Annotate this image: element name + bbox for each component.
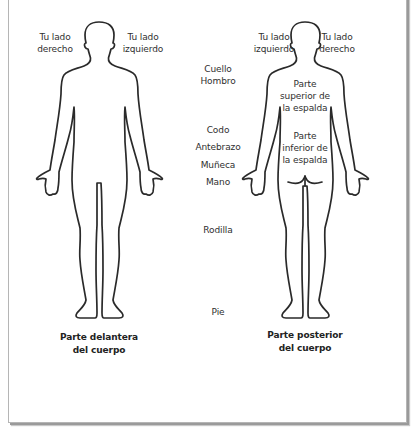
label-line: Parte: [275, 130, 335, 142]
label-line: Tu lado: [249, 31, 299, 43]
label-line: inferior de: [275, 142, 335, 154]
label-line: izquierdo: [118, 43, 168, 55]
back-right-side-label: Tu lado derecho: [312, 31, 362, 55]
label-foot: Pie: [188, 306, 248, 318]
caption-line: del cuerpo: [54, 344, 144, 357]
back-left-side-label: Tu lado izquierdo: [249, 31, 299, 55]
label-line: la espalda: [275, 102, 335, 114]
front-caption: Parte delantera del cuerpo: [54, 331, 144, 356]
label-line: Tu lado: [30, 31, 80, 43]
label-line: la espalda: [275, 154, 335, 166]
label-line: derecho: [30, 43, 80, 55]
label-forearm: Antebrazo: [188, 141, 248, 153]
upper-back-label: Parte superior de la espalda: [275, 78, 335, 114]
label-shoulder: Hombro: [188, 75, 248, 87]
front-body-outline-icon: [37, 22, 163, 318]
front-left-side-label: Tu lado izquierdo: [118, 31, 168, 55]
label-line: Parte: [275, 78, 335, 90]
label-hand: Mano: [188, 176, 248, 188]
label-line: izquierdo: [249, 43, 299, 55]
back-body-outline-icon: [243, 22, 369, 318]
back-caption: Parte posterior del cuerpo: [260, 329, 350, 354]
label-line: Tu lado: [312, 31, 362, 43]
front-right-side-label: Tu lado derecho: [30, 31, 80, 55]
label-wrist: Muñeca: [188, 159, 248, 171]
label-knee: Rodilla: [188, 224, 248, 236]
label-line: Tu lado: [118, 31, 168, 43]
caption-line: Parte posterior: [260, 329, 350, 342]
label-line: derecho: [312, 43, 362, 55]
label-neck: Cuello: [188, 63, 248, 75]
lower-back-label: Parte inferior de la espalda: [275, 130, 335, 166]
caption-line: Parte delantera: [54, 331, 144, 344]
caption-line: del cuerpo: [260, 342, 350, 355]
label-line: superior de: [275, 90, 335, 102]
label-elbow: Codo: [188, 124, 248, 136]
